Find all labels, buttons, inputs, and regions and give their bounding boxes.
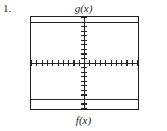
plot-area <box>31 17 138 109</box>
y-axis <box>84 17 85 109</box>
graphing-window <box>30 16 139 110</box>
function-label-g-text: g(x) <box>75 2 93 14</box>
curve-g <box>31 22 138 23</box>
function-label-f-text: f(x) <box>76 114 91 126</box>
graph-figure: 1. g(x) f(x) <box>0 0 167 131</box>
function-label-g: g(x) <box>0 2 167 14</box>
function-label-f: f(x) <box>0 114 167 126</box>
curve-f <box>31 99 138 100</box>
